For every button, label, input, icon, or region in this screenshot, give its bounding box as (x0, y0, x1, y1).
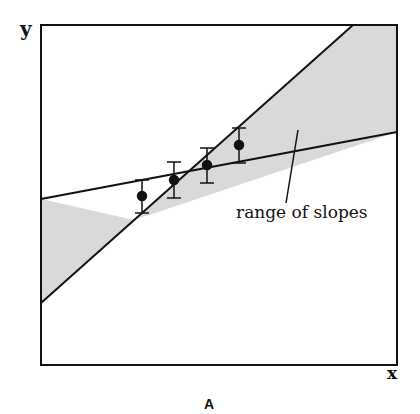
range-of-slopes-label: range of slopes (236, 202, 368, 222)
max-slope-line (41, 25, 353, 303)
panel-label: A (204, 396, 214, 412)
y-axis-label: y (19, 17, 33, 41)
x-axis-label: x (387, 363, 398, 383)
shaded-region-left (41, 199, 134, 303)
slope-range-diagram: y x range of slopes A (0, 0, 420, 414)
